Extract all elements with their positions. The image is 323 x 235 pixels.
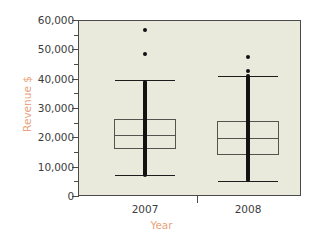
y-axis-title: Revenue $ <box>21 59 33 149</box>
y-tick-minor <box>74 181 79 182</box>
y-tick-label: 30,000 <box>38 102 74 114</box>
x-tick-label-2008: 2008 <box>213 203 283 215</box>
outlier-point-2008 <box>246 55 250 59</box>
y-tick-label: 60,000 <box>38 14 74 26</box>
y-tick-label: 50,000 <box>38 43 74 55</box>
y-tick-label: 10,000 <box>38 161 74 173</box>
box-plot-figure: 010,00020,00030,00040,00050,00060,000 20… <box>0 0 323 235</box>
data-point-strip-2008 <box>246 74 250 182</box>
x-tick-mid <box>197 196 198 203</box>
y-tick-minor <box>74 35 79 36</box>
y-tick-label: 20,000 <box>38 131 74 143</box>
y-tick-minor <box>74 64 79 65</box>
x-axis-title: Year <box>0 219 323 231</box>
y-tick-minor <box>74 152 79 153</box>
y-tick-minor <box>74 123 79 124</box>
outlier-point-2008 <box>246 69 250 73</box>
plot-area <box>78 20 301 196</box>
x-tick-label-2007: 2007 <box>110 203 180 215</box>
outlier-point-2007 <box>143 28 147 32</box>
outlier-point-2007 <box>143 52 147 56</box>
data-point-strip-2007 <box>143 80 147 177</box>
y-tick-label: 0 <box>67 190 74 202</box>
y-tick-label: 40,000 <box>38 73 74 85</box>
y-tick-minor <box>74 93 79 94</box>
